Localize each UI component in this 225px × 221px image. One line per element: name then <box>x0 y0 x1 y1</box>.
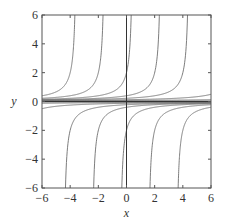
y-tick-label: 6 <box>32 8 38 22</box>
x-tick-label: 2 <box>152 191 158 205</box>
y-tick-label: 0 <box>32 95 38 109</box>
y-tick-label: −6 <box>25 181 38 195</box>
x-tick-label: 6 <box>208 191 214 205</box>
x-axis-label: x <box>123 206 130 220</box>
x-tick-label: 0 <box>124 191 130 205</box>
x-tick-label: 4 <box>180 191 186 205</box>
y-tick-label: 4 <box>32 37 38 51</box>
x-axis-ticks: −6−4−20246 <box>36 15 214 205</box>
y-axis-label: y <box>10 94 17 108</box>
y-tick-label: −2 <box>25 123 38 137</box>
x-tick-label: −2 <box>92 191 105 205</box>
chart: −6−4−20246 −6−4−20246 x y <box>0 0 225 221</box>
x-tick-label: −4 <box>64 191 77 205</box>
y-tick-label: 2 <box>32 66 38 80</box>
y-tick-label: −4 <box>25 152 38 166</box>
